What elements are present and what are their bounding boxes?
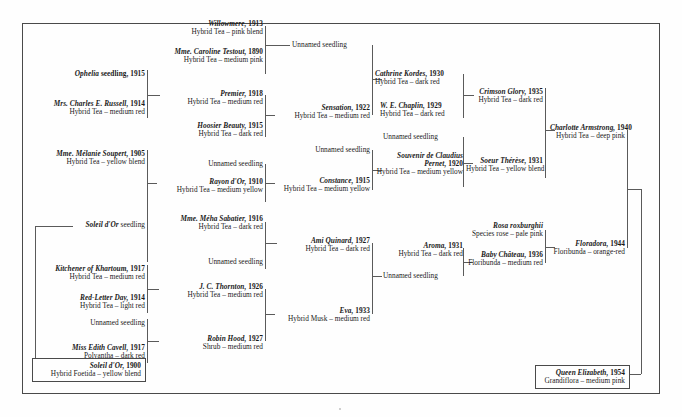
node-willowmere: Willowmere, 1913 Hybrid Tea – pink blend <box>125 20 263 36</box>
node-meha-sabatier-class: Hybrid Tea – dark red <box>152 223 263 231</box>
node-crimson-glory: Crimson Glory, 1935 Hybrid Tea – dark re… <box>455 88 543 104</box>
node-unnamed-seedling-3-label: Unnamed seedling <box>183 160 263 168</box>
node-souvenir-claudius-pernet: Souvenir de Claudius Pernet, 1920 Hybrid… <box>375 152 463 177</box>
node-soleil-dor-seedling: Soleil d'Or seedling <box>70 221 145 229</box>
node-sensation: Sensation, 1922 Hybrid Tea – medium red <box>268 104 370 120</box>
chart-frame <box>22 23 660 394</box>
node-unnamed-seedling-7-label: Unnamed seedling <box>383 272 463 280</box>
node-rosa-roxburghii: Rosa roxburghii Species rose – pale pink <box>462 222 543 238</box>
node-kitchener-of-khartoum: Kitchener of Khartoum, 1917 Hybrid Tea –… <box>18 265 145 281</box>
node-floradora-class: Floribunda – orange-red <box>545 248 625 256</box>
node-eva-class: Hybrid Musk – medium red <box>263 315 370 323</box>
connector-armstrong-floradora-out <box>627 189 641 190</box>
bracket-premier-hoosier <box>265 95 266 137</box>
node-ami-quinard-class: Hybrid Tea – dark red <box>280 245 370 253</box>
node-baby-chateau: Baby Château, 1936 Floribunda – medium r… <box>450 251 543 267</box>
node-robin-hood: Robin Hood, 1927 Shrub – medium red <box>170 335 263 351</box>
node-unnamed-seedling-2: Unnamed seedling <box>383 133 463 141</box>
connector-to-robin-hood <box>147 341 159 342</box>
node-eva: Eva, 1933 Hybrid Musk – medium red <box>263 307 370 323</box>
node-mrs-charles-russell-class: Hybrid Tea – medium red <box>18 108 145 116</box>
node-caroline-testout-class: Hybrid Tea – medium pink <box>108 56 263 64</box>
node-soeur-therese-class: Hybrid Tea – yellow blend <box>466 165 543 173</box>
node-unnamed-seedling-3: Unnamed seedling <box>183 160 263 168</box>
node-we-chaplin-class: Hybrid Tea – dark red <box>380 110 463 118</box>
bracket-amiquinard-eva <box>372 243 373 314</box>
bracket-crimsonglory-soeurtherese <box>545 88 546 178</box>
node-floradora: Floradora, 1944 Floribunda – orange-red <box>545 240 625 256</box>
node-souvenir-claudius-pernet-name: Souvenir de Claudius Pernet, 1920 <box>375 152 463 168</box>
node-soleil-dor-1900: Soleil d'Or, 1900 Hybrid Foetida – yello… <box>32 358 146 382</box>
node-willowmere-class: Hybrid Tea – pink blend <box>125 28 263 36</box>
node-charlotte-armstrong-class: Hybrid Tea – deep pink <box>550 132 625 140</box>
node-kitchener-of-khartoum-class: Hybrid Tea – medium red <box>18 273 145 281</box>
node-unnamed-seedling-4-label: Unnamed seedling <box>292 146 370 154</box>
connector-to-unnamed7 <box>372 276 382 277</box>
node-rayon-dor: Rayon d'Or, 1910 Hybrid Tea – medium yel… <box>148 178 263 194</box>
node-crimson-glory-class: Hybrid Tea – dark red <box>455 96 543 104</box>
node-ophelia-seedling: Ophelia seedling, 1915 <box>38 70 145 78</box>
connector-unnamed3-out <box>265 183 275 184</box>
bracket-unnamed1-sensation <box>372 45 373 115</box>
node-jc-thornton-class: Hybrid Tea – medium red <box>155 291 263 299</box>
node-unnamed-seedling-6-label: Unnamed seedling <box>65 319 145 327</box>
node-queen-elizabeth-class: Grandiflora – medium pink <box>540 377 625 385</box>
node-hoosier-beauty: Hoosier Beauty, 1915 Hybrid Tea – dark r… <box>150 122 263 138</box>
node-red-letter-day-class: Hybrid Tea – light red <box>38 302 145 310</box>
node-unnamed-seedling-6: Unnamed seedling <box>65 319 145 327</box>
node-soleil-dor-seedling-name: Soleil d'Or seedling <box>70 221 145 229</box>
node-charlotte-armstrong: Charlotte Armstrong, 1940 Hybrid Tea – d… <box>550 124 625 140</box>
bracket-willowmere-testout <box>265 26 266 74</box>
pedigree-chart: Willowmere, 1913 Hybrid Tea – pink blend… <box>0 0 682 417</box>
bracket-soleildorseedling-sabatier <box>147 210 148 262</box>
node-unnamed-seedling-7: Unnamed seedling <box>383 272 463 280</box>
connector-to-unnamed-1 <box>265 45 290 46</box>
bracket-unnamed2-souvenir <box>463 137 464 187</box>
node-soeur-therese: Soeur Thérèse, 1931 Hybrid Tea – yellow … <box>466 157 543 173</box>
connector-to-queen-elizabeth <box>630 374 641 375</box>
node-jc-thornton: J. C. Thornton, 1926 Hybrid Tea – medium… <box>155 283 263 299</box>
node-constance: Constance, 1915 Hybrid Tea – medium yell… <box>277 177 370 193</box>
node-meha-sabatier: Mme. Méha Sabatier, 1916 Hybrid Tea – da… <box>152 215 263 231</box>
node-rayon-dor-class: Hybrid Tea – medium yellow <box>148 186 263 194</box>
node-unnamed-seedling-1-label: Unnamed seedling <box>292 41 372 49</box>
line-down-to-queen-elizabeth <box>641 189 642 374</box>
node-soleil-dor-1900-class: Hybrid Foetida – yellow blend <box>37 370 141 378</box>
node-unnamed-seedling-1: Unnamed seedling <box>292 41 372 49</box>
node-cathrine-kordes: Cathrine Kordes, 1930 Hybrid Tea – dark … <box>375 70 463 86</box>
node-rosa-roxburghii-class: Species rose – pale pink <box>462 230 543 238</box>
scan-speck <box>339 408 341 410</box>
node-hoosier-beauty-class: Hybrid Tea – dark red <box>150 130 263 138</box>
bracket-sabatier-unnamed5 <box>265 222 266 269</box>
node-premier: Premier, 1918 Hybrid Tea – medium red <box>155 90 263 106</box>
node-robin-hood-class: Shrub – medium red <box>170 343 263 351</box>
node-mrs-charles-russell: Mrs. Charles E. Russell, 1914 Hybrid Tea… <box>18 100 145 116</box>
bracket-ophelia-russell <box>147 70 148 118</box>
node-we-chaplin: W. E. Chaplin, 1929 Hybrid Tea – dark re… <box>380 102 463 118</box>
node-ophelia-seedling-name: Ophelia seedling, 1915 <box>38 70 145 78</box>
node-caroline-testout: Mme. Caroline Testout, 1890 Hybrid Tea –… <box>108 48 263 64</box>
connector-to-ami-quinard <box>265 243 277 244</box>
node-constance-class: Hybrid Tea – medium yellow <box>277 185 370 193</box>
node-cathrine-kordes-class: Hybrid Tea – dark red <box>375 78 463 86</box>
node-unnamed-seedling-5-label: Unnamed seedling <box>183 258 263 266</box>
node-premier-class: Hybrid Tea – medium red <box>155 98 263 106</box>
node-red-letter-day: Red-Letter Day, 1914 Hybrid Tea – light … <box>38 294 145 310</box>
node-unnamed-seedling-2-label: Unnamed seedling <box>383 133 463 141</box>
node-melanie-soupert: Mme. Mélanie Soupert, 1905 Hybrid Tea – … <box>22 150 145 166</box>
node-souvenir-claudius-pernet-class: Hybrid Tea – medium yellow <box>375 168 463 176</box>
node-melanie-soupert-class: Hybrid Tea – yellow blend <box>22 158 145 166</box>
node-ami-quinard: Ami Quinard, 1927 Hybrid Tea – dark red <box>280 237 370 253</box>
connector-soleildor-seedling <box>35 226 73 227</box>
node-unnamed-seedling-4: Unnamed seedling <box>292 146 370 154</box>
node-unnamed-seedling-5: Unnamed seedling <box>183 258 263 266</box>
node-queen-elizabeth: Queen Elizabeth, 1954 Grandiflora – medi… <box>535 365 630 389</box>
node-sensation-class: Hybrid Tea – medium red <box>268 112 370 120</box>
node-baby-chateau-class: Floribunda – medium red <box>450 259 543 267</box>
